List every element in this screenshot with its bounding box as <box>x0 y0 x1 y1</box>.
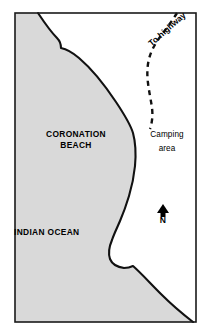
map-canvas <box>0 0 215 335</box>
coastal-map-figure: CORONATION BEACH INDIAN OCEAN Camping ar… <box>0 0 215 335</box>
